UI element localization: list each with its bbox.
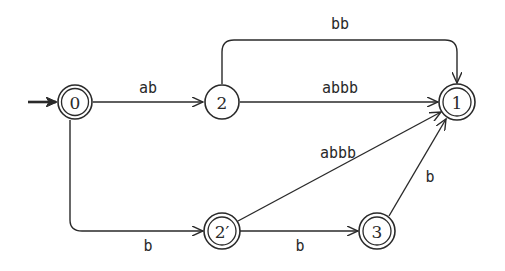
automaton-diagram: ab bb abbb b abbb b b 0 2 1 — [0, 0, 505, 271]
state-label: 1 — [452, 93, 463, 113]
edge-label: b — [425, 168, 434, 186]
edge-2-to-1-bb: bb — [222, 15, 457, 84]
state-1: 1 — [439, 84, 475, 120]
edge-label: abbb — [320, 144, 356, 162]
edge-label: abbb — [322, 79, 358, 97]
edge-label: ab — [139, 79, 157, 97]
edge-3-to-1: b — [389, 119, 446, 216]
edge-label: b — [295, 237, 304, 255]
edge-2p-to-1-abbb: abbb — [238, 112, 441, 221]
edge-0-to-2p: b — [70, 120, 203, 255]
state-label: 2 — [217, 93, 228, 113]
state-label: 2′ — [215, 222, 230, 242]
state-2-prime: 2′ — [204, 213, 240, 249]
state-0: 0 — [58, 85, 92, 119]
edge-label: bb — [331, 15, 349, 33]
edge-2-to-1-abbb: abbb — [240, 79, 438, 102]
edge-0-to-2: ab — [93, 79, 203, 102]
edge-2p-to-3: b — [240, 231, 358, 255]
state-2: 2 — [205, 85, 239, 119]
state-3: 3 — [359, 213, 395, 249]
edge-label: b — [143, 237, 152, 255]
state-label: 3 — [372, 222, 383, 242]
state-label: 0 — [70, 93, 81, 113]
